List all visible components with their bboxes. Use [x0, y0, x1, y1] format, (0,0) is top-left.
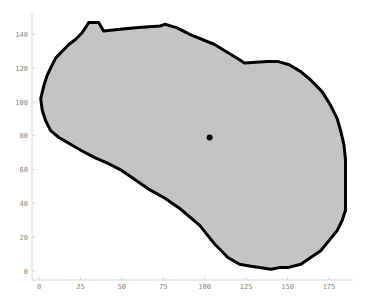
y-tick-label: 100 — [15, 99, 28, 107]
x-tick-label: 0 — [37, 283, 41, 291]
x-tick-label: 25 — [76, 283, 84, 291]
x-axis: 0255075100125150175 — [32, 277, 354, 291]
x-tick-label: 100 — [198, 283, 211, 291]
x-tick-label: 150 — [281, 283, 294, 291]
y-tick-label: 20 — [20, 234, 28, 242]
x-tick-label: 75 — [159, 283, 167, 291]
y-tick-label: 0 — [24, 268, 28, 276]
x-tick-label: 50 — [118, 283, 126, 291]
y-tick-label: 60 — [20, 166, 28, 174]
chart: 020406080100120140 0255075100125150175 — [0, 0, 368, 307]
centroid-point — [207, 134, 213, 140]
x-tick-label: 125 — [240, 283, 253, 291]
y-tick-label: 80 — [20, 132, 28, 140]
region-polygon — [41, 23, 346, 270]
y-tick-label: 140 — [15, 31, 28, 39]
y-axis: 020406080100120140 — [15, 13, 35, 280]
x-tick-label: 175 — [323, 283, 336, 291]
y-tick-label: 40 — [20, 200, 28, 208]
y-tick-label: 120 — [15, 65, 28, 73]
